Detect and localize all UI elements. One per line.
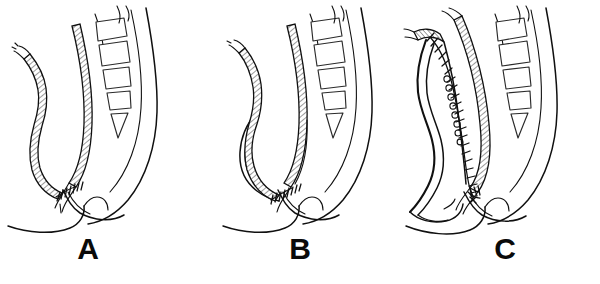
panel-label-b: B — [289, 232, 311, 265]
anatomical-illustration: A — [0, 0, 600, 284]
figure-root: A — [0, 0, 600, 284]
sacrum-vertebrae-a — [88, 6, 157, 224]
descending-colon-b — [227, 40, 279, 201]
colonic-j-pouch-c — [404, 29, 466, 222]
rectal-stump-b — [277, 24, 307, 212]
panel-label-c: C — [494, 232, 516, 265]
panel-label-a: A — [77, 232, 99, 265]
rectal-stump-a — [55, 24, 92, 212]
descending-colon-a — [12, 43, 62, 199]
panel-c: C — [404, 6, 557, 265]
sacrum-vertebrae-b — [303, 6, 372, 224]
pelvic-floor-b — [223, 197, 323, 232]
anal-verge-marks-a — [60, 204, 61, 213]
sacrum-vertebrae-c — [488, 6, 557, 224]
panel-b: B — [223, 6, 372, 265]
anal-canal-a — [63, 190, 124, 220]
panel-a: A — [8, 6, 157, 265]
